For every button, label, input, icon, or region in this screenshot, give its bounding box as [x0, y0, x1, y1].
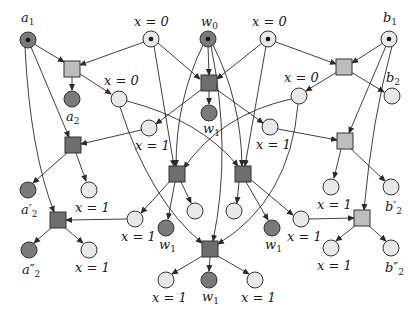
arc — [276, 42, 336, 64]
place-p_x1_l1 — [141, 120, 157, 136]
token-dot-icon — [206, 37, 211, 42]
place-label: x = 0 — [134, 14, 169, 29]
place-label: x = 1 — [75, 200, 110, 215]
transition-t10 — [202, 241, 218, 257]
place-p_a1 — [20, 32, 36, 48]
place-p_x1_l3 — [127, 211, 143, 227]
transition-t7 — [337, 133, 353, 149]
place-circle — [291, 88, 307, 104]
place-p_w1_top — [201, 105, 217, 121]
place-label: a2 — [66, 109, 80, 126]
token-dot-icon — [266, 37, 271, 42]
place-p_x0_mid_r — [291, 88, 307, 104]
place-circle — [323, 240, 339, 256]
place-label: x = 0 — [104, 73, 139, 88]
arc — [31, 47, 69, 137]
arc — [156, 89, 202, 124]
place-circle — [384, 88, 400, 104]
arc — [368, 225, 386, 241]
place-circle — [264, 220, 280, 236]
place-p_w0 — [200, 31, 216, 47]
arc — [81, 130, 141, 144]
place-label: x = 1 — [121, 229, 156, 244]
place-circle — [20, 182, 36, 198]
place-circle — [127, 211, 143, 227]
transition-t3 — [336, 59, 352, 75]
place-label: x = 1 — [256, 137, 291, 152]
place-p_c_r — [226, 203, 242, 219]
token-dot-icon — [149, 37, 154, 42]
place-label: x = 0 — [252, 14, 287, 29]
place-p_w1_r — [264, 220, 280, 236]
place-circle — [81, 242, 97, 258]
place-circle — [111, 91, 127, 107]
place-label: a″2 — [22, 262, 40, 279]
place-p_b2p — [383, 179, 399, 195]
place-label: x = 1 — [75, 260, 110, 275]
place-label: b1 — [383, 10, 397, 27]
arc — [209, 257, 210, 271]
transition-t5 — [169, 166, 185, 182]
place-circle — [247, 272, 263, 288]
place-circle — [158, 272, 174, 288]
place-label: a′2 — [21, 202, 37, 219]
place-p_x1_r4 — [323, 240, 339, 256]
place-p_x0_top_l — [143, 31, 159, 47]
place-circle — [262, 119, 278, 135]
place-circle — [141, 120, 157, 136]
arc — [213, 45, 242, 166]
transition-t9 — [354, 210, 370, 226]
arc — [34, 227, 52, 243]
place-p_b2 — [384, 88, 400, 104]
place-p_c_l — [187, 203, 203, 219]
place-label: w1 — [203, 121, 220, 138]
place-label: b″2 — [385, 260, 404, 277]
place-label: x = 0 — [284, 70, 319, 85]
arc — [181, 182, 191, 203]
arc — [172, 255, 204, 274]
place-p_w1_b — [201, 272, 217, 288]
place-label: w1 — [265, 237, 282, 254]
place-label: w1 — [202, 289, 219, 306]
place-circle — [64, 91, 80, 107]
place-label: x = 1 — [287, 229, 322, 244]
place-circle — [187, 203, 203, 219]
transition-t2 — [201, 75, 217, 91]
place-p_b1 — [381, 31, 397, 47]
place-p_x1_l2 — [81, 182, 97, 198]
place-label: x = 1 — [317, 258, 352, 273]
place-circle — [158, 220, 174, 236]
place-circle — [201, 272, 217, 288]
arc — [336, 225, 356, 241]
place-p_w1_l — [158, 220, 174, 236]
place-circle — [323, 179, 339, 195]
arc — [309, 218, 354, 219]
arc — [218, 104, 298, 244]
arc — [168, 182, 175, 219]
arc — [66, 219, 127, 220]
transition-t1 — [64, 61, 80, 77]
arc — [158, 43, 200, 79]
arc — [76, 153, 86, 181]
place-label: x = 1 — [135, 138, 170, 153]
place-label: b2 — [386, 70, 400, 87]
transition-t6 — [235, 166, 251, 182]
arc — [80, 42, 144, 65]
place-p_x1_r1 — [262, 119, 278, 135]
place-p_a2p — [20, 182, 36, 198]
arc — [250, 179, 293, 215]
place-label: x = 1 — [241, 290, 276, 305]
place-circle — [293, 211, 309, 227]
transition-t8 — [50, 212, 66, 228]
place-circle — [21, 242, 37, 258]
arc — [334, 149, 341, 178]
token-dot-icon — [26, 38, 31, 43]
place-circle — [226, 203, 242, 219]
transition-t4 — [65, 137, 81, 153]
arc — [208, 46, 209, 75]
place-circle — [383, 240, 399, 256]
place-label: b′2 — [385, 199, 402, 216]
place-p_x1_b_r — [247, 272, 263, 288]
place-p_x1_r3 — [293, 211, 309, 227]
arc — [352, 43, 383, 63]
